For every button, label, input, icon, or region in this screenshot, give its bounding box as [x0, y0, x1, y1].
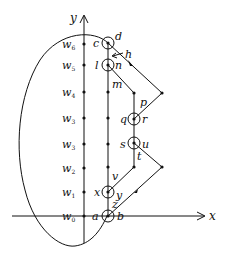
label-s: s — [120, 138, 126, 151]
dot — [82, 90, 85, 93]
dot — [160, 91, 163, 94]
label-x: x — [94, 186, 101, 199]
label-d: d — [115, 30, 122, 43]
label-n: n — [115, 59, 122, 72]
dot — [106, 214, 109, 217]
svg-text:w4: w4 — [62, 86, 75, 99]
svg-text:w2: w2 — [62, 162, 75, 175]
dot — [160, 165, 163, 168]
dot — [106, 63, 109, 66]
dot — [82, 166, 85, 169]
dot — [106, 41, 109, 44]
w-labels: w6 w5 w4 w3 w3 w2 w1 w0 — [62, 38, 75, 223]
dot — [82, 142, 85, 145]
dot — [106, 190, 109, 193]
svg-text:w0: w0 — [62, 210, 75, 223]
dot — [82, 42, 85, 45]
label-p: p — [140, 96, 147, 109]
x-axis-label: x — [209, 209, 216, 223]
dot — [106, 142, 109, 145]
label-t: t — [137, 150, 142, 163]
dot — [132, 91, 135, 94]
dot — [106, 116, 109, 119]
label-a: a — [92, 210, 99, 223]
label-r: r — [142, 113, 148, 126]
svg-text:w3: w3 — [62, 138, 75, 151]
dot — [82, 116, 85, 119]
svg-text:w3: w3 — [62, 112, 75, 125]
label-v: v — [112, 170, 119, 183]
label-h: h — [125, 48, 132, 61]
dot — [132, 141, 135, 144]
dot — [106, 165, 109, 168]
svg-text:w1: w1 — [62, 186, 75, 199]
svg-text:w6: w6 — [62, 38, 75, 51]
dot — [82, 190, 85, 193]
dot — [132, 165, 135, 168]
diagram-canvas: y x w6 w5 w4 w3 w3 w2 w1 w0 c d h l n m … — [0, 0, 225, 258]
label-q: q — [120, 113, 127, 126]
label-m: m — [112, 78, 122, 91]
label-b: b — [117, 210, 124, 223]
label-u: u — [142, 138, 149, 151]
label-c: c — [93, 37, 99, 50]
label-l: l — [95, 59, 99, 72]
dot — [82, 63, 85, 66]
direction-arrow-icon — [134, 189, 138, 193]
dot — [106, 90, 109, 93]
dot — [82, 214, 85, 217]
dot — [132, 117, 135, 120]
svg-text:w5: w5 — [62, 59, 75, 72]
y-axis-label: y — [69, 11, 77, 25]
